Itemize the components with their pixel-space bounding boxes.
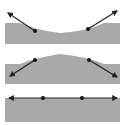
point-left xyxy=(41,96,45,100)
point-right xyxy=(80,96,84,100)
flat-surface xyxy=(5,98,120,122)
point-right xyxy=(86,27,90,31)
point-left xyxy=(33,29,37,33)
point-right xyxy=(87,58,91,62)
surface-tangent-diagram xyxy=(0,0,127,125)
convex-panel xyxy=(5,54,120,84)
point-left xyxy=(33,58,37,62)
flat-panel xyxy=(5,96,120,122)
concave-panel xyxy=(5,11,120,44)
concave-surface xyxy=(5,23,120,44)
